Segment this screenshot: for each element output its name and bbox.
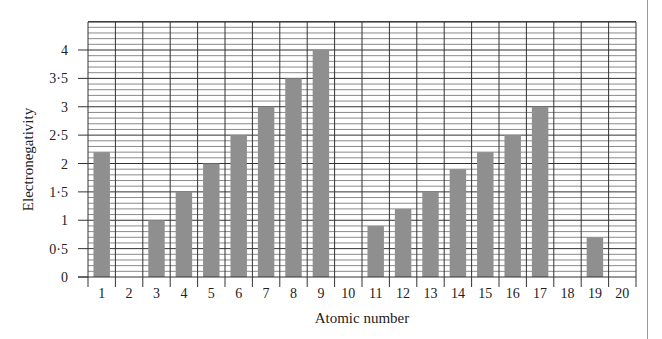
x-tick-label: 4 xyxy=(180,286,187,301)
bar-9 xyxy=(313,50,329,277)
x-tick-label: 17 xyxy=(533,286,547,301)
x-tick-label: 2 xyxy=(126,286,133,301)
bar-17 xyxy=(532,107,548,277)
bar-8 xyxy=(285,78,301,277)
x-tick-label: 3 xyxy=(153,286,160,301)
y-tick-label: 4 xyxy=(61,43,68,58)
bar-1 xyxy=(93,152,109,277)
x-tick-label: 14 xyxy=(451,286,465,301)
y-axis-label: Electronegativity xyxy=(20,107,36,211)
bar-3 xyxy=(148,220,164,277)
bar-12 xyxy=(395,209,411,277)
y-tick-label: 2·5 xyxy=(49,128,68,143)
y-tick-label: 2 xyxy=(61,157,68,172)
x-tick-label: 15 xyxy=(478,286,492,301)
bar-4 xyxy=(176,192,192,277)
bar-5 xyxy=(203,164,219,278)
y-tick-label: 3 xyxy=(61,100,68,115)
y-tick-label: 3·5 xyxy=(49,71,68,86)
bar-19 xyxy=(587,237,603,277)
bar-14 xyxy=(450,169,466,277)
bar-6 xyxy=(230,135,246,277)
bar-chart: 00·511·522·533·5412345678910111213141516… xyxy=(0,0,662,339)
y-tick-label: 1 xyxy=(61,213,68,228)
x-tick-label: 11 xyxy=(369,286,382,301)
x-tick-label: 1 xyxy=(98,286,105,301)
x-tick-label: 12 xyxy=(396,286,410,301)
x-axis-label: Atomic number xyxy=(315,310,410,326)
y-tick-label: 1·5 xyxy=(49,185,68,200)
x-tick-label: 8 xyxy=(290,286,297,301)
bar-15 xyxy=(477,152,493,277)
y-tick-label: 0 xyxy=(61,270,68,285)
x-tick-label: 6 xyxy=(235,286,242,301)
x-tick-label: 13 xyxy=(424,286,438,301)
x-tick-label: 18 xyxy=(561,286,575,301)
x-tick-label: 7 xyxy=(263,286,270,301)
bar-7 xyxy=(258,107,274,277)
x-tick-label: 10 xyxy=(341,286,355,301)
x-tick-label: 5 xyxy=(208,286,215,301)
x-tick-label: 16 xyxy=(506,286,520,301)
x-tick-label: 20 xyxy=(615,286,629,301)
x-tick-label: 19 xyxy=(588,286,602,301)
bar-16 xyxy=(504,135,520,277)
bar-11 xyxy=(367,226,383,277)
x-tick-label: 9 xyxy=(317,286,324,301)
bar-13 xyxy=(422,192,438,277)
y-tick-label: 0·5 xyxy=(49,242,68,257)
